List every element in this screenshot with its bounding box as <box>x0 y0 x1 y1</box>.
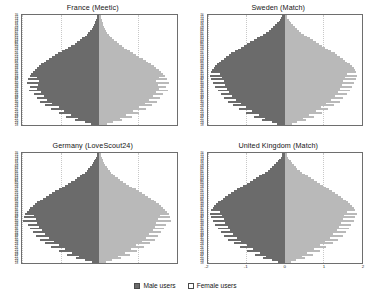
panel-title: Germany (LoveScout24) <box>0 141 186 150</box>
bar-row <box>22 261 177 263</box>
y-axis-tick-labels: 7675747372717069686766656463626160595857… <box>0 14 20 126</box>
bar-female <box>285 123 292 125</box>
legend-swatch-female-icon <box>188 283 194 289</box>
bars-container <box>208 153 363 263</box>
x-axis-tick-label: -1 <box>244 264 248 270</box>
y-axis-tick-label: 18 <box>200 124 203 127</box>
panel-sweden: Sweden (Match) 7675747372717069686766656… <box>186 0 371 138</box>
gridline-vertical <box>362 15 363 125</box>
plot-area <box>207 152 364 264</box>
plot-area <box>21 152 178 264</box>
panel-title: France (Meetic) <box>0 3 186 12</box>
legend-label-male: Male users <box>143 282 175 290</box>
y-axis-tick-labels: 7675747372717069686766656463626160595857… <box>186 14 206 126</box>
panel-grid: France (Meetic) 767574737271706968676665… <box>0 0 371 276</box>
bars-container <box>22 153 177 263</box>
x-axis-tick-label: -2 <box>205 264 209 270</box>
legend-item-female: Female users <box>188 282 237 290</box>
axis-frame <box>207 152 364 264</box>
panel-title: United Kingdom (Match) <box>186 141 371 150</box>
panel-germany: Germany (LoveScout24) 767574737271706968… <box>0 138 186 276</box>
bar-male <box>92 261 100 263</box>
y-axis-tick-label: 18 <box>15 262 18 265</box>
bar-male <box>91 123 99 125</box>
legend: Male users Female users <box>0 282 371 290</box>
bar-female <box>99 123 107 125</box>
axis-frame <box>21 152 178 264</box>
figure-population-pyramids: France (Meetic) 767574737271706968676665… <box>0 0 371 298</box>
axis-frame <box>21 14 178 126</box>
bar-row <box>208 123 363 125</box>
bar-row <box>208 261 363 263</box>
x-axis-tick-labels <box>207 126 364 136</box>
panel-title: Sweden (Match) <box>186 3 371 12</box>
bar-row <box>22 123 177 125</box>
plot-area <box>207 14 364 126</box>
x-axis-tick-label: 1 <box>323 264 325 270</box>
y-axis-tick-labels: 7675747372717069686766656463626160595857… <box>0 152 20 264</box>
axis-frame <box>207 14 364 126</box>
panel-united-kingdom: United Kingdom (Match) 76757473727170696… <box>186 138 371 276</box>
bar-female <box>285 261 291 263</box>
gridline-vertical <box>177 153 178 263</box>
bar-male <box>277 123 285 125</box>
x-axis-tick-label: 2 <box>362 264 364 270</box>
y-axis-tick-label: 18 <box>15 124 18 127</box>
gridline-vertical <box>362 153 363 263</box>
x-axis-tick-labels <box>21 126 178 136</box>
panel-france: France (Meetic) 767574737271706968676665… <box>0 0 186 138</box>
y-axis-tick-label: 18 <box>200 262 203 265</box>
x-axis-tick-label: 0 <box>284 264 286 270</box>
x-axis-tick-labels <box>21 264 178 274</box>
bars-container <box>208 15 363 125</box>
legend-swatch-male-icon <box>134 283 140 289</box>
legend-item-male: Male users <box>134 282 175 290</box>
bars-container <box>22 15 177 125</box>
x-axis-tick-labels: -2-1012 <box>207 264 364 274</box>
plot-area <box>21 14 178 126</box>
gridline-vertical <box>177 15 178 125</box>
y-axis-tick-labels: 7675747372717069686766656463626160595857… <box>186 152 206 264</box>
legend-label-female: Female users <box>197 282 237 290</box>
bar-female <box>99 261 106 263</box>
bar-male <box>278 261 285 263</box>
